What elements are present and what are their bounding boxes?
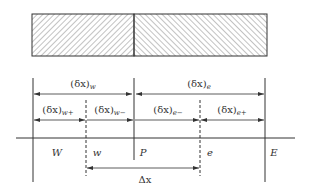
hatched-bar [32,14,267,56]
label-dx-w-plus: (δx)w+ [42,104,73,117]
node-label-e: e [207,147,213,158]
label-dx-w-minus: (δx)w− [94,104,125,117]
node-label-P: P [139,147,147,158]
finite-volume-diagram: (δx)w (δx)e (δx)w+ (δx)w− (δx)e− (δx)e+ … [0,0,309,191]
node-label-E: E [269,147,278,158]
label-dx-w: (δx)w [70,78,95,91]
bar-left-region [32,14,134,56]
label-dx-e-minus: (δx)e− [153,104,183,117]
node-label-w: w [93,147,102,158]
node-label-W: W [52,147,63,158]
label-dx-e-plus: (δx)e+ [217,104,247,117]
label-control-volume: Δx [139,174,152,185]
bar-right-region [134,14,267,56]
label-dx-e: (δx)e [187,78,211,91]
